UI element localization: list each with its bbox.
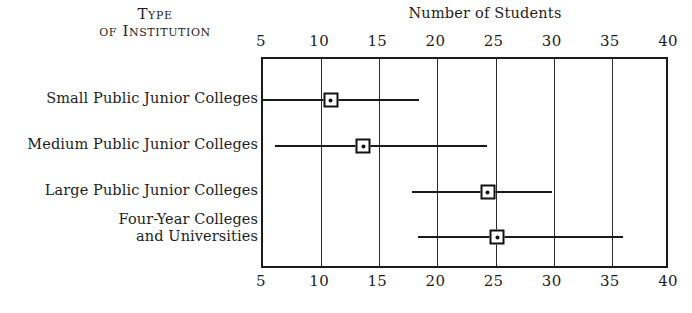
row-label-line-1: Small Public Junior Colleges	[46, 90, 258, 106]
x-tick-bottom-35: 35	[600, 272, 620, 290]
row-label-line-1: Large Public Junior Colleges	[45, 182, 258, 198]
x-tick-bottom-25: 25	[484, 272, 504, 290]
x-tick-bottom-20: 20	[426, 272, 446, 290]
range-line	[275, 145, 487, 147]
median-marker	[480, 185, 495, 200]
row-label: Large Public Junior Colleges	[0, 182, 258, 199]
row-label-line-1: Medium Public Junior Colleges	[27, 136, 258, 152]
chart-figure: Type of Institution Number of Students 5…	[0, 0, 692, 313]
range-line	[418, 236, 623, 238]
row-label: Four-Year Collegesand Universities	[0, 211, 258, 245]
gridline-20	[437, 59, 438, 266]
median-marker	[490, 230, 505, 245]
range-line	[261, 99, 419, 101]
x-tick-bottom-30: 30	[542, 272, 562, 290]
x-tick-top-35: 35	[600, 32, 620, 50]
median-marker	[356, 139, 371, 154]
x-tick-top-15: 15	[367, 32, 387, 50]
gridline-30	[554, 59, 555, 266]
row-label-line-1: Four-Year Colleges	[119, 211, 258, 227]
x-tick-bottom-40: 40	[658, 272, 678, 290]
x-tick-bottom-5: 5	[256, 272, 266, 290]
x-tick-bottom-15: 15	[367, 272, 387, 290]
x-tick-top-30: 30	[542, 32, 562, 50]
x-tick-top-10: 10	[309, 32, 329, 50]
row-label-line-2: and Universities	[0, 228, 258, 245]
gridline-10	[321, 59, 322, 266]
gridline-15	[379, 59, 380, 266]
row-label: Medium Public Junior Colleges	[0, 136, 258, 153]
x-tick-bottom-10: 10	[309, 272, 329, 290]
x-axis-ticks-bottom: 510152025303540	[0, 272, 692, 292]
x-axis-title: Number of Students	[380, 5, 590, 21]
x-tick-top-40: 40	[658, 32, 678, 50]
median-marker	[323, 93, 338, 108]
row-label: Small Public Junior Colleges	[0, 90, 258, 107]
gridline-35	[612, 59, 613, 266]
x-tick-top-25: 25	[484, 32, 504, 50]
x-tick-top-5: 5	[256, 32, 266, 50]
x-tick-top-20: 20	[426, 32, 446, 50]
x-axis-ticks-top: 510152025303540	[0, 32, 692, 52]
column-header-line-1: Type	[60, 6, 250, 23]
